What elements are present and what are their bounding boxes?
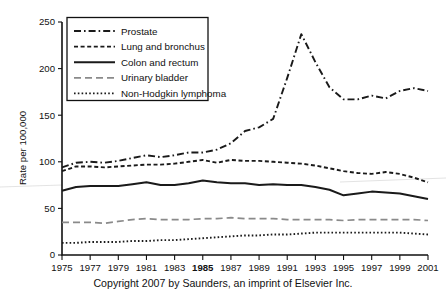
legend-item-label: Urinary bladder [121,72,189,83]
legend-item-label: Lung and bronchus [121,41,205,52]
y-tick-label: 50 [44,203,55,214]
x-tick-label: 1989 [248,262,269,273]
series-line [62,160,428,182]
x-tick-label: 1999 [389,262,410,273]
x-tick-label: 1979 [108,262,129,273]
x-tick-label: 1985 [192,262,214,273]
x-tick-label: 2001 [417,262,438,273]
x-tick-label: 1977 [79,262,100,273]
legend-item-label: Non-Hodgkin lymphoma [121,88,227,99]
x-axis: 1975197719791981198319851987198919911993… [51,255,438,273]
x-tick-label: 1997 [361,262,382,273]
x-tick-label: 1991 [277,262,298,273]
copyright-caption: Copyright 2007 by Saunders, an imprint o… [93,277,352,289]
series-line [62,180,428,199]
y-tick-label: 150 [39,110,55,121]
x-tick-label: 1995 [333,262,354,273]
chart-legend: ProstateLung and bronchusColon and rectu… [67,18,227,101]
legend-item-label: Colon and rectum [121,57,198,68]
y-tick-label: 100 [39,156,55,167]
x-tick-label: 1987 [220,262,241,273]
x-tick-label: 1975 [51,262,72,273]
y-tick-label: 250 [39,16,55,27]
legend-item-label: Prostate [121,26,158,37]
series-line [62,233,428,243]
figure-container: 050100150200250 197519771979198119831985… [0,0,446,299]
y-axis-title: Rate per 100,000 [17,111,28,185]
y-tick-label: 200 [39,63,55,74]
x-tick-label: 1981 [136,262,157,273]
series-line [62,218,428,224]
y-axis: 050100150200250 [39,16,62,260]
x-tick-label: 1983 [164,262,185,273]
y-tick-label: 0 [50,249,55,260]
x-tick-label: 1993 [305,262,326,273]
line-chart: 050100150200250 197519771979198119831985… [0,0,446,299]
